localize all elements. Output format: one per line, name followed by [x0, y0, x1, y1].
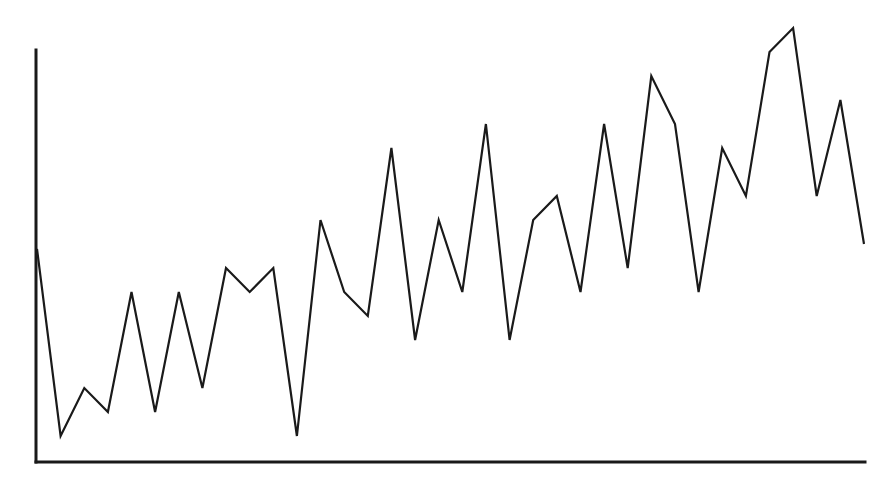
data-series-line: [37, 28, 864, 436]
line-chart: [0, 0, 890, 492]
